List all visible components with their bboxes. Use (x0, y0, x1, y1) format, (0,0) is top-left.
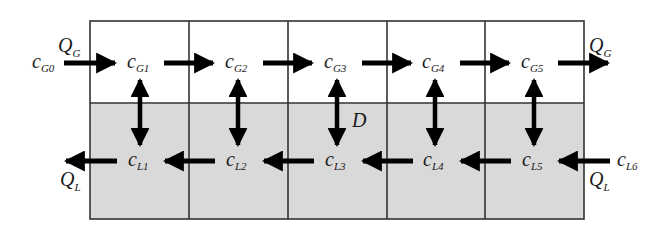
gas-outlet-flow-label: QG (589, 34, 611, 59)
gas-inlet-flow-label: QG (58, 34, 80, 59)
liquid-outlet-flow-label: QL (60, 168, 81, 193)
liquid-inlet-concentration: cL6 (617, 148, 638, 172)
exchange-label-D: D (351, 109, 367, 131)
liquid-inlet-flow-label: QL (589, 168, 610, 193)
stage-cascade-diagram: QG cG0 cG1 cG2 cG3 cG4 cG5 QG D QL cL1 c… (0, 0, 670, 229)
gas-inlet-concentration: cG0 (32, 50, 55, 74)
